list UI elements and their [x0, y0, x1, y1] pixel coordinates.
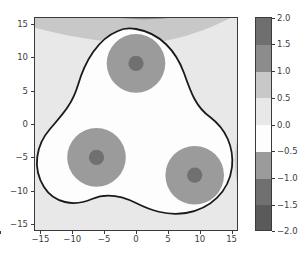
plot-area [34, 17, 238, 231]
colorbar-label: −0.5 [277, 146, 298, 156]
xtick-label: −15 [31, 234, 49, 244]
colorbar-label: 1.0 [277, 66, 291, 76]
colorbar-label: −2.0 [277, 226, 298, 236]
colorbar-tick [272, 151, 275, 152]
colorbar-label: 1.5 [277, 39, 291, 49]
colorbar-label: 0.5 [277, 93, 291, 103]
colorbar-band-0.5-1.0 [256, 72, 271, 99]
xtick-label: 10 [194, 234, 205, 244]
contour-figure: −15 −10 −5 0 5 10 15 15 10 5 0 −5 −10 −1… [0, 0, 302, 261]
well-top-core [128, 56, 143, 71]
colorbar-band-1.5-2.0 [256, 18, 271, 45]
xtick-label: 15 [226, 234, 237, 244]
colorbar-label: −1.0 [277, 173, 298, 183]
ytick-mark [31, 157, 34, 158]
colorbar-label: −1.5 [277, 200, 298, 210]
colorbar-label: 2.0 [277, 13, 291, 23]
ytick-label: 10 [6, 52, 28, 62]
colorbar-tick [272, 125, 275, 126]
colorbar-band-1.0-1.5 [256, 45, 271, 72]
ytick-mark [31, 57, 34, 58]
ytick-mark [31, 191, 34, 192]
xtick-label: 0 [133, 234, 138, 244]
ytick-label: 0 [6, 119, 28, 129]
xtick-mark [0, 231, 1, 234]
ytick-label: 15 [6, 19, 28, 29]
ytick-label: −10 [4, 186, 28, 196]
colorbar-tick [272, 205, 275, 206]
contour-plot-svg [34, 17, 238, 231]
colorbar-tick [272, 98, 275, 99]
colorbar-tick [272, 231, 275, 232]
ytick-mark [31, 91, 34, 92]
colorbar-band-minus2.0-minus1.5 [256, 205, 271, 231]
ytick-mark [31, 124, 34, 125]
colorbar-band-minus1.0-minus0.5 [256, 152, 271, 179]
colorbar-band-minus0.5-0.0 [256, 125, 271, 152]
ytick-label: 5 [6, 86, 28, 96]
well-lower-left-core [89, 150, 104, 165]
ytick-label: −15 [4, 219, 28, 229]
ytick-label: −5 [4, 152, 28, 162]
xtick-label: 5 [165, 234, 170, 244]
xtick-label: −10 [63, 234, 81, 244]
xtick-label: −5 [98, 234, 111, 244]
colorbar-tick [272, 71, 275, 72]
colorbar[interactable] [255, 17, 272, 231]
colorbar-label: 0.0 [277, 120, 291, 130]
colorbar-band-minus1.5-minus1.0 [256, 179, 271, 206]
colorbar-band-0.0-0.5 [256, 98, 271, 125]
well-lower-right-core [187, 168, 202, 183]
colorbar-tick [272, 18, 275, 19]
ytick-mark [31, 24, 34, 25]
colorbar-tick [272, 44, 275, 45]
colorbar-tick [272, 178, 275, 179]
ytick-mark [31, 224, 34, 225]
